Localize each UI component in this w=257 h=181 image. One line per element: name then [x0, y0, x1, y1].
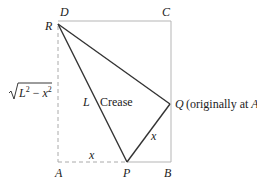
- label-R: R: [44, 19, 53, 33]
- svg-text:L2 − x2: L2 − x2: [18, 85, 52, 100]
- label-C: C: [162, 5, 171, 19]
- label-A: A: [54, 166, 63, 180]
- label-L: L: [82, 95, 90, 109]
- label-x-bottom: x: [88, 148, 95, 162]
- label-Q-note: (originally at A): [186, 97, 257, 111]
- label-left-side-sqrt: L2 − x2: [9, 83, 52, 100]
- crease-diagram: D C R A P B Q (originally at A) L Crease…: [0, 0, 257, 181]
- label-B: B: [164, 166, 172, 180]
- crease-line-RP: [58, 24, 127, 162]
- label-P: P: [122, 166, 131, 180]
- label-Q: Q: [175, 97, 184, 111]
- label-x-diagonal: x: [150, 129, 157, 143]
- label-D: D: [59, 5, 69, 19]
- fold-line-RQ: [58, 24, 170, 104]
- fold-line-QP: [127, 104, 170, 162]
- label-crease: Crease: [100, 95, 133, 109]
